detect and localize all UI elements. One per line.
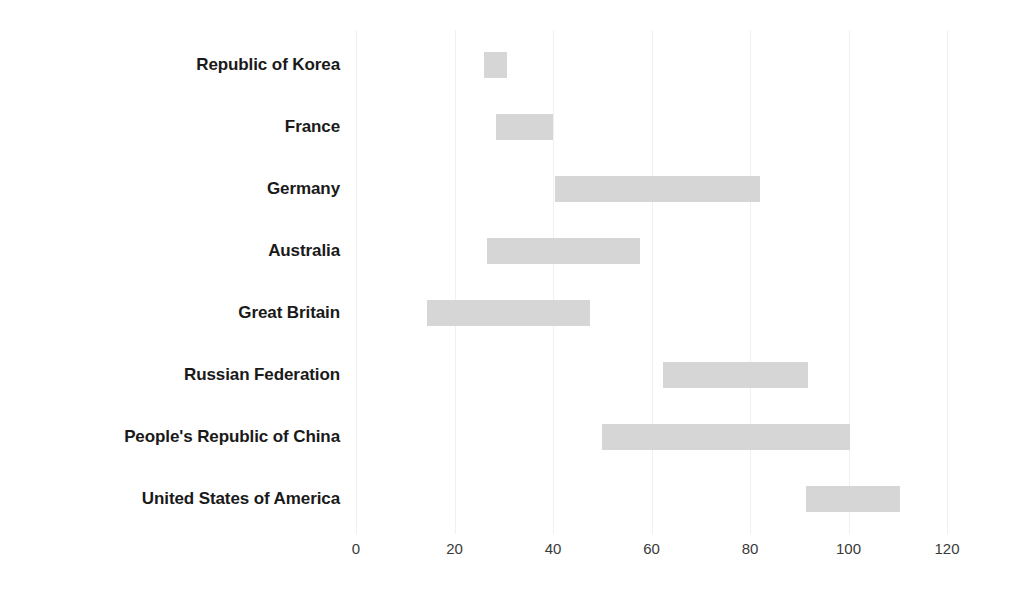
category-label: Republic of Korea [0, 34, 340, 96]
x-tick-label: 120 [934, 540, 959, 557]
bar [484, 52, 507, 78]
bar-row: Republic of Korea [0, 34, 1021, 96]
bar [806, 486, 900, 512]
bar [663, 362, 808, 388]
bar [496, 114, 553, 140]
range-bar-chart: Republic of KoreaFranceGermanyAustraliaG… [0, 0, 1021, 600]
category-label: People's Republic of China [0, 406, 340, 468]
plot-area: Republic of KoreaFranceGermanyAustraliaG… [0, 0, 1021, 600]
bar-row: United States of America [0, 468, 1021, 530]
category-label: United States of America [0, 468, 340, 530]
bar [427, 300, 590, 326]
category-label: Great Britain [0, 282, 340, 344]
category-label: Australia [0, 220, 340, 282]
bar-row: Russian Federation [0, 344, 1021, 406]
bar-row: People's Republic of China [0, 406, 1021, 468]
bar [487, 238, 640, 264]
bar [555, 176, 760, 202]
x-tick-label: 40 [545, 540, 562, 557]
category-label: Russian Federation [0, 344, 340, 406]
x-tick-label: 100 [836, 540, 861, 557]
bar [602, 424, 850, 450]
category-label: France [0, 96, 340, 158]
bar-row: France [0, 96, 1021, 158]
bar-row: Germany [0, 158, 1021, 220]
x-tick-label: 80 [742, 540, 759, 557]
bar-row: Great Britain [0, 282, 1021, 344]
bar-row: Australia [0, 220, 1021, 282]
category-label: Germany [0, 158, 340, 220]
x-axis: 020406080100120 [0, 540, 1021, 568]
x-tick-label: 20 [446, 540, 463, 557]
x-tick-label: 0 [352, 540, 360, 557]
x-tick-label: 60 [643, 540, 660, 557]
